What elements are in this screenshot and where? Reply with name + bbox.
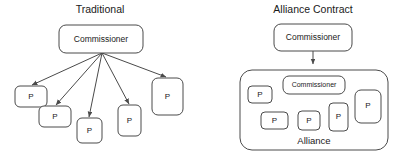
diagram-canvas: Traditional Commissioner P P: [0, 0, 401, 162]
panel-title-traditional: Traditional: [76, 3, 125, 15]
node-commissioner-alliance-root[interactable]: Commissioner: [274, 24, 352, 51]
node-p-3-label: P: [87, 126, 92, 135]
node-alliance-p-1-label: P: [257, 90, 262, 99]
edge-commissioner-to-p-5: [102, 53, 166, 77]
node-alliance-p-2[interactable]: P: [261, 112, 288, 129]
node-commissioner-alliance-member-label: Commissioner: [292, 81, 337, 88]
node-alliance-p-4[interactable]: P: [329, 103, 348, 131]
panel-alliance-contract: Alliance Contract Commissioner Alliance …: [240, 3, 388, 150]
edge-commissioner-to-p-2: [56, 53, 102, 105]
node-alliance-p-5-label: P: [365, 101, 370, 110]
edge-commissioner-to-p-4: [102, 53, 129, 104]
node-commissioner-alliance-root-label: Commissioner: [286, 32, 340, 42]
node-commissioner-traditional-label: Commissioner: [74, 34, 128, 44]
node-p-4[interactable]: P: [118, 105, 141, 136]
node-p-1[interactable]: P: [15, 86, 47, 107]
node-alliance-p-3-label: P: [306, 116, 311, 125]
panel-title-alliance-contract: Alliance Contract: [273, 3, 352, 15]
node-commissioner-traditional[interactable]: Commissioner: [59, 25, 143, 53]
node-alliance-p-4-label: P: [336, 112, 341, 121]
node-alliance-p-3[interactable]: P: [298, 111, 320, 130]
node-p-2-label: P: [52, 112, 57, 121]
node-p-1-label: P: [28, 92, 33, 101]
node-alliance-p-1[interactable]: P: [248, 86, 272, 103]
edge-commissioner-to-p-3: [89, 53, 102, 117]
node-commissioner-alliance-member[interactable]: Commissioner: [283, 76, 345, 94]
node-p-4-label: P: [127, 116, 132, 125]
node-p-5-label: P: [165, 92, 170, 101]
node-alliance-p-2-label: P: [272, 116, 277, 125]
node-alliance-p-5[interactable]: P: [355, 90, 381, 123]
node-p-3[interactable]: P: [77, 118, 102, 143]
group-alliance-label: Alliance: [297, 135, 330, 146]
edge-commissioner-to-p-1: [32, 53, 102, 85]
panel-traditional: Traditional Commissioner P P: [15, 3, 183, 143]
node-p-5[interactable]: P: [152, 78, 183, 115]
group-alliance[interactable]: Alliance Commissioner P P P: [240, 70, 388, 150]
organization-structure-diagram: Traditional Commissioner P P: [0, 0, 401, 162]
node-p-2[interactable]: P: [39, 106, 71, 127]
